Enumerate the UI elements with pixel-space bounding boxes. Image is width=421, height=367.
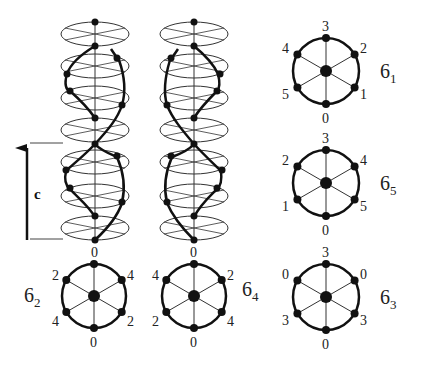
label-bottom: 0	[322, 223, 329, 238]
label-upper-right: 0	[360, 267, 367, 282]
label-upper-left: 4	[282, 41, 289, 56]
label-lower-right: 3	[360, 313, 367, 328]
label-upper-right: 4	[127, 268, 134, 283]
projection-6-1: 3 2 1 0 5 4	[282, 19, 367, 126]
label-bottom: 0	[322, 111, 329, 126]
label-lower-left: 3	[282, 313, 289, 328]
label-lower-left: 1	[282, 199, 289, 214]
label-top: 3	[322, 19, 329, 34]
symbol-6-1: 61	[380, 60, 397, 86]
projection-6-4: 2 4 0 2 4	[152, 260, 234, 350]
label-upper-left: 2	[52, 268, 59, 283]
label-lower-left: 4	[52, 314, 59, 329]
symbol-6-2: 62	[24, 284, 41, 310]
label-upper-right: 2	[360, 41, 367, 56]
symbol-6-4: 64	[242, 278, 259, 304]
label-upper-right: 2	[227, 268, 234, 283]
symbol-6-3: 63	[380, 286, 397, 312]
label-bottom: 0	[90, 335, 97, 350]
projection-6-5: 3 4 5 0 1 2	[282, 131, 367, 238]
label-upper-right: 4	[360, 153, 367, 168]
label-lower-left: 5	[282, 87, 289, 102]
label-top: 3	[322, 131, 329, 146]
right-helix-bottom-label: 0	[190, 245, 197, 260]
label-lower-right: 5	[360, 199, 367, 214]
label-upper-left: 2	[282, 153, 289, 168]
screw-axes-diagram: c 0	[0, 0, 421, 367]
c-axis-label: c	[34, 186, 41, 202]
symbol-6-5: 65	[380, 172, 397, 198]
label-top: 3	[322, 245, 329, 260]
label-upper-left: 0	[282, 267, 289, 282]
right-helix: 0	[160, 19, 228, 261]
label-bottom: 0	[322, 337, 329, 352]
left-helix: 0	[61, 19, 129, 261]
c-axis-arrow: c	[27, 143, 63, 240]
label-lower-left: 2	[152, 314, 159, 329]
label-lower-right: 4	[227, 314, 234, 329]
projection-6-2: 4 2 0 4 2	[52, 260, 134, 350]
projection-6-3: 3 0 3 0 3 0	[282, 245, 367, 352]
label-bottom: 0	[190, 335, 197, 350]
label-lower-right: 2	[127, 314, 134, 329]
left-helix-bottom-label: 0	[91, 245, 98, 260]
label-upper-left: 4	[152, 268, 159, 283]
label-lower-right: 1	[360, 87, 367, 102]
